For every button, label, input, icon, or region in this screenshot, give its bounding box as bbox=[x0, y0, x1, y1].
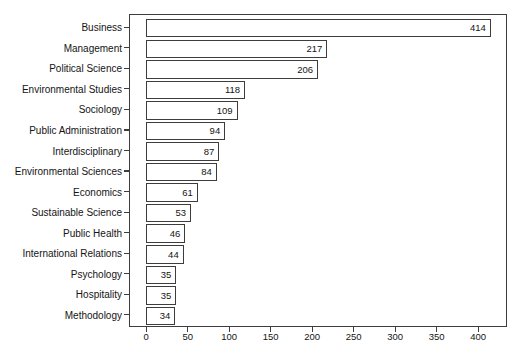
y-tick bbox=[124, 232, 129, 233]
bar: 84 bbox=[146, 163, 217, 182]
bar-value-label: 217 bbox=[306, 44, 326, 54]
bar-value-label: 206 bbox=[297, 65, 317, 75]
bar-value-label: 94 bbox=[210, 126, 225, 136]
bar: 87 bbox=[146, 142, 220, 161]
bar: 206 bbox=[146, 60, 318, 79]
x-tick-label: 400 bbox=[470, 332, 486, 342]
category-label: Sustainable Science bbox=[0, 207, 122, 218]
bar: 118 bbox=[146, 81, 245, 100]
bar: 34 bbox=[146, 307, 176, 326]
x-tick-label: 50 bbox=[182, 332, 193, 342]
bar-value-label: 84 bbox=[201, 167, 216, 177]
category-label: Public Health bbox=[0, 227, 122, 238]
y-tick bbox=[124, 212, 129, 213]
category-label: Psychology bbox=[0, 268, 122, 279]
plot-area: 41421720611810994878461534644353534 bbox=[129, 14, 507, 327]
y-tick bbox=[124, 27, 129, 28]
category-label: Hospitality bbox=[0, 289, 122, 300]
bar: 53 bbox=[146, 204, 191, 223]
category-label: Environmental Sciences bbox=[0, 166, 122, 177]
y-tick bbox=[124, 191, 129, 192]
category-label: Interdisciplinary bbox=[0, 145, 122, 156]
bar: 217 bbox=[146, 40, 328, 59]
bar: 109 bbox=[146, 101, 238, 120]
category-label: Management bbox=[0, 42, 122, 53]
x-tick-label: 200 bbox=[304, 332, 320, 342]
y-tick bbox=[124, 88, 129, 89]
bar-value-label: 34 bbox=[160, 311, 175, 321]
bar-value-label: 44 bbox=[168, 250, 183, 260]
bar: 94 bbox=[146, 122, 226, 141]
bar-value-label: 109 bbox=[217, 106, 237, 116]
category-label: International Relations bbox=[0, 248, 122, 259]
bar: 35 bbox=[146, 286, 177, 305]
y-tick bbox=[124, 273, 129, 274]
x-tick-label: 300 bbox=[387, 332, 403, 342]
y-tick bbox=[124, 68, 129, 69]
bar-value-label: 118 bbox=[225, 85, 244, 95]
x-tick-label: 350 bbox=[429, 332, 445, 342]
category-label: Business bbox=[0, 22, 122, 33]
bar: 46 bbox=[146, 224, 186, 243]
bar-value-label: 87 bbox=[204, 147, 219, 157]
y-tick bbox=[124, 109, 129, 110]
bar-value-label: 61 bbox=[182, 188, 197, 198]
bar-value-label: 53 bbox=[176, 208, 191, 218]
bar: 44 bbox=[146, 245, 184, 264]
bar: 61 bbox=[146, 183, 198, 202]
y-tick bbox=[124, 129, 129, 130]
bar-value-label: 35 bbox=[161, 270, 176, 280]
bar-value-label: 46 bbox=[170, 229, 185, 239]
y-tick bbox=[124, 170, 129, 171]
y-tick bbox=[124, 314, 129, 315]
category-label: Political Science bbox=[0, 63, 122, 74]
x-tick-label: 250 bbox=[346, 332, 362, 342]
x-tick-label: 0 bbox=[144, 332, 149, 342]
y-tick bbox=[124, 150, 129, 151]
category-label: Public Administration bbox=[0, 124, 122, 135]
category-label: Sociology bbox=[0, 104, 122, 115]
category-label: Methodology bbox=[0, 309, 122, 320]
y-tick bbox=[124, 253, 129, 254]
bar-chart-figure: 41421720611810994878461534644353534 Busi… bbox=[0, 0, 527, 358]
bar: 35 bbox=[146, 266, 177, 285]
category-label: Environmental Studies bbox=[0, 83, 122, 94]
y-tick bbox=[124, 47, 129, 48]
bar-value-label: 414 bbox=[470, 23, 490, 33]
category-label: Economics bbox=[0, 186, 122, 197]
y-tick bbox=[124, 294, 129, 295]
x-tick-label: 150 bbox=[263, 332, 279, 342]
bar-value-label: 35 bbox=[161, 291, 176, 301]
bar: 414 bbox=[146, 19, 491, 38]
x-tick-label: 100 bbox=[221, 332, 237, 342]
